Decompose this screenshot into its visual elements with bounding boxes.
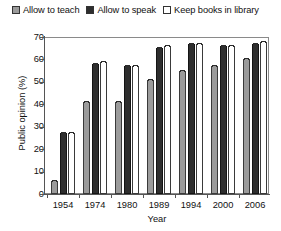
x-axis-tick-mark <box>175 194 176 198</box>
bar-group <box>211 37 235 194</box>
x-axis-tick-mark <box>79 194 80 198</box>
legend-swatch-icon <box>12 6 20 14</box>
x-axis-tick-mark <box>143 194 144 198</box>
bar <box>124 66 131 194</box>
x-axis-tick-mark <box>47 194 48 198</box>
bar <box>83 102 90 194</box>
x-axis-label: Year <box>44 214 270 224</box>
bar-group <box>243 37 267 194</box>
x-axis-tick-mark <box>239 194 240 198</box>
bar <box>188 44 195 194</box>
bar <box>243 59 250 194</box>
bar <box>92 64 99 194</box>
bar-group <box>51 37 75 194</box>
legend-swatch-icon <box>163 6 171 14</box>
bar-group <box>83 37 107 194</box>
bar <box>68 133 75 194</box>
bar <box>228 46 235 194</box>
bar <box>252 44 259 194</box>
bar-group <box>147 37 171 194</box>
legend-swatch-icon <box>86 6 94 14</box>
legend-label: Allow to teach <box>23 5 79 15</box>
x-axis-tick-mark <box>207 194 208 198</box>
x-axis-tick-label: 2006 <box>235 200 275 211</box>
legend-item-allow-to-teach: Allow to teach <box>12 5 79 15</box>
legend-label: Allow to speak <box>97 5 156 15</box>
legend-item-allow-to-speak: Allow to speak <box>86 5 156 15</box>
bar <box>211 66 218 194</box>
legend-label: Keep books in library <box>174 5 259 15</box>
x-axis-tick-mark <box>111 194 112 198</box>
bar <box>60 133 67 194</box>
legend-item-keep-books-in-library: Keep books in library <box>163 5 259 15</box>
bar <box>179 71 186 194</box>
bar-groups <box>45 37 269 194</box>
bar <box>147 80 154 194</box>
bar <box>164 46 171 194</box>
bar <box>260 42 267 195</box>
bar <box>115 102 122 194</box>
bar <box>156 48 163 194</box>
bar <box>132 66 139 194</box>
bar-group <box>179 37 203 194</box>
bar <box>220 46 227 194</box>
bar-chart: Allow to teach Allow to speak Keep books… <box>0 0 281 231</box>
bar <box>196 44 203 194</box>
bar-group <box>115 37 139 194</box>
x-axis-line <box>44 194 270 195</box>
bar <box>100 62 107 194</box>
y-axis-tick-mark <box>40 194 45 195</box>
chart-legend: Allow to teach Allow to speak Keep books… <box>12 2 274 18</box>
bar <box>51 181 58 194</box>
